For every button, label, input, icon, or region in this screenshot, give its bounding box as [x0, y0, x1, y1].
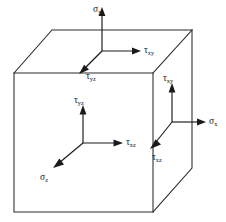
sigma-y-label: σy [93, 4, 102, 15]
stress-element-figure: σy τxy τyz τyz [0, 0, 226, 222]
sigma-x-arrowhead [197, 119, 206, 126]
sigma-x-label: σx [209, 116, 218, 127]
stress-cube-diagram: σy τxy τyz τyz [0, 0, 226, 222]
cube-faces [14, 30, 192, 212]
